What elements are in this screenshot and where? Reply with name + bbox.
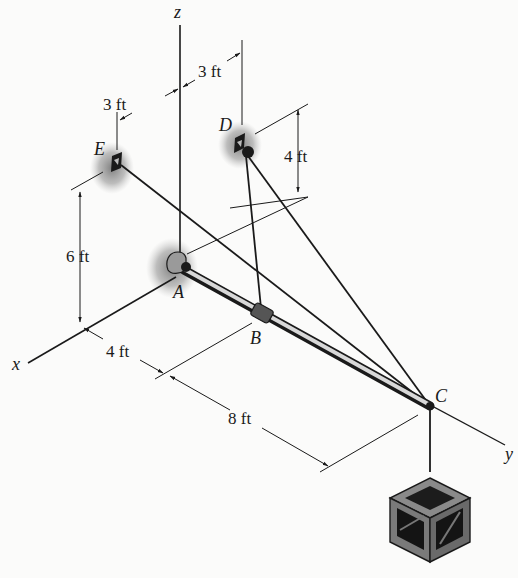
point-label-d: D <box>218 115 232 135</box>
dim-bc-length: 8 ft <box>228 409 251 428</box>
dim-d-height: 4 ft <box>284 147 307 166</box>
cable-bd <box>246 156 261 308</box>
dim-ab-length: 4 ft <box>106 342 129 361</box>
point-label-b: B <box>250 328 261 348</box>
dim-d-offset: 3 ft <box>198 62 221 81</box>
point-label-e: E <box>93 139 105 159</box>
coordinate-axes <box>28 25 505 445</box>
cable-cd <box>248 156 430 406</box>
dim-e-height: 6 ft <box>66 247 89 266</box>
x-axis-label: x <box>11 354 20 374</box>
point-label-a: A <box>172 282 185 302</box>
y-axis-label: y <box>503 444 513 464</box>
boom-ac <box>184 269 434 410</box>
crate <box>390 478 470 562</box>
cables <box>121 156 430 472</box>
x-axis <box>28 277 176 363</box>
statics-diagram: z x y 3 ft 3 ft 4 ft 6 ft 4 ft <box>0 0 518 578</box>
point-label-c: C <box>435 386 448 406</box>
z-axis-label: z <box>173 2 181 22</box>
dim-e-offset: 3 ft <box>103 95 126 114</box>
